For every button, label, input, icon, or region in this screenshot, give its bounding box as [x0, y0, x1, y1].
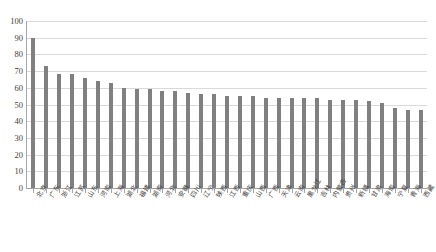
bar	[393, 108, 397, 188]
bar	[225, 96, 229, 188]
y-tick-label-100: 100	[10, 17, 23, 26]
x-tick	[175, 189, 176, 193]
bar	[419, 110, 423, 188]
bar	[31, 38, 35, 188]
bar	[380, 103, 384, 188]
bar	[122, 88, 126, 188]
bar	[315, 98, 319, 188]
y-tick-label-10: 10	[15, 167, 24, 176]
bar	[96, 81, 100, 188]
bar	[212, 94, 216, 188]
bar	[70, 74, 74, 188]
y-tick-label-60: 60	[15, 84, 24, 93]
bar-chart: 0102030405060708090100 北京广东浙江江苏山东河南上海湖北福…	[0, 0, 436, 252]
y-tick-label-0: 0	[19, 184, 23, 193]
x-axis: 北京广东浙江江苏山东河南上海湖北福建湖南河北安徽四川辽宁陕西江西重庆山西广西天津…	[27, 189, 427, 252]
bar	[148, 89, 152, 188]
bar	[277, 98, 281, 188]
x-tick	[304, 189, 305, 193]
bar	[264, 98, 268, 188]
y-tick-label-40: 40	[15, 117, 24, 126]
bar	[160, 91, 164, 188]
bar	[302, 98, 306, 188]
x-tick	[46, 189, 47, 193]
bar	[44, 66, 48, 188]
bar	[367, 101, 371, 188]
y-tick-label-70: 70	[15, 67, 24, 76]
bar	[290, 98, 294, 188]
x-tick	[317, 189, 318, 193]
bar	[173, 91, 177, 188]
bar	[199, 94, 203, 188]
bar	[328, 100, 332, 189]
y-tick-label-50: 50	[15, 100, 24, 109]
x-tick	[162, 189, 163, 193]
bar	[354, 100, 358, 189]
bar	[251, 96, 255, 188]
bar	[341, 100, 345, 189]
bar	[186, 93, 190, 188]
bars-layer	[27, 21, 427, 188]
y-tick-label-80: 80	[15, 50, 24, 59]
y-tick-label-90: 90	[15, 33, 24, 42]
bar	[238, 96, 242, 188]
bar	[83, 78, 87, 188]
y-axis: 0102030405060708090100	[0, 21, 27, 188]
bar	[135, 89, 139, 188]
bar	[57, 74, 61, 188]
x-tick	[33, 189, 34, 193]
y-tick-label-20: 20	[15, 150, 24, 159]
y-tick-label-30: 30	[15, 134, 24, 143]
bar	[406, 110, 410, 188]
bar	[109, 83, 113, 188]
